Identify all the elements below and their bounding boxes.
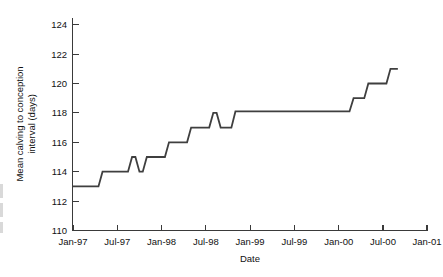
x-tick-label: Jan-01 (412, 236, 441, 247)
y-tick-label: 110 (52, 225, 67, 236)
x-tick-label: Jul-98 (193, 236, 219, 247)
line-chart-plot: 110 112 114 116 118 120 122 124 Jan-97 J… (0, 0, 443, 277)
y-tick-label: 120 (51, 78, 67, 89)
x-tick-label: Jan-98 (147, 236, 176, 247)
x-tick-label: Jul-00 (370, 236, 396, 247)
y-axis-title-line2: interval (days) (26, 94, 37, 154)
x-tick-label: Jan-00 (324, 236, 353, 247)
y-tick-label: 118 (52, 107, 67, 118)
chart-figure: 110 112 114 116 118 120 122 124 Jan-97 J… (0, 0, 443, 277)
x-tick-marks (73, 225, 427, 231)
x-tick-label: Jan-99 (236, 236, 265, 247)
y-tick-marks (73, 25, 79, 231)
y-tick-label: 116 (52, 137, 67, 148)
x-tick-label: Jul-97 (104, 236, 130, 247)
x-tick-label: Jul-99 (281, 236, 307, 247)
x-axis-title: Date (240, 253, 260, 264)
y-axis-title: Mean calving to conception interval (day… (14, 66, 37, 181)
y-axis-title-line1: Mean calving to conception (14, 66, 25, 181)
y-tick-label: 124 (51, 19, 67, 30)
y-tick-labels: 110 112 114 116 118 120 122 124 (51, 19, 67, 236)
y-tick-label: 114 (52, 166, 67, 177)
x-tick-label: Jan-97 (58, 236, 87, 247)
x-tick-labels: Jan-97 Jul-97 Jan-98 Jul-98 Jan-99 Jul-9… (58, 236, 441, 247)
data-series-line (73, 69, 398, 187)
y-tick-label: 112 (52, 196, 67, 207)
y-tick-label: 122 (51, 49, 67, 60)
